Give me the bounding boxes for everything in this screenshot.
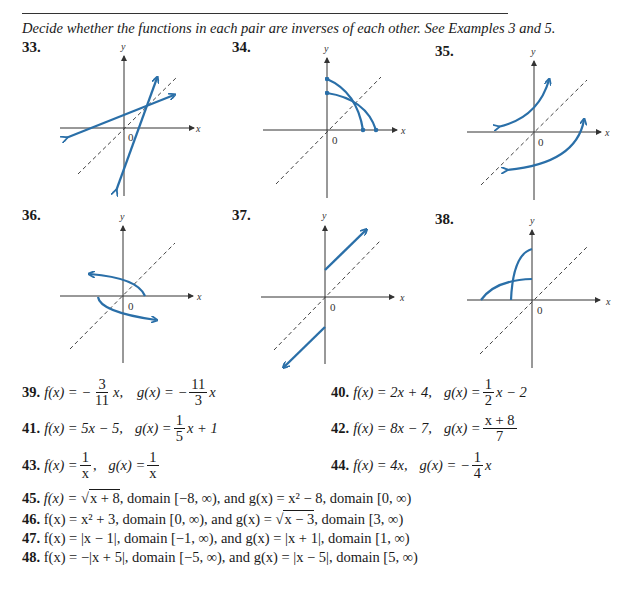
- svg-text:0: 0: [330, 301, 336, 313]
- problem-39-number: 39.: [22, 384, 40, 401]
- graph-33: x y 0: [60, 41, 201, 196]
- graph-34: x y 0: [263, 43, 406, 198]
- svg-text:0: 0: [538, 136, 544, 148]
- graphs-canvas: x y 0 x y 0 x y 0 x y 0: [0, 0, 640, 380]
- graph-37: x y 0: [261, 210, 405, 367]
- problem-40: 40. f(x) = 2x + 4, g(x) = 12 x − 2: [331, 377, 527, 408]
- problem-45: 45. f(x) = √x + 8, domain [−8, ∞), and g…: [22, 490, 411, 507]
- fraction: 1x: [147, 450, 158, 481]
- svg-text:x: x: [400, 125, 406, 136]
- problem-43-number: 43.: [22, 457, 40, 474]
- fraction: 1x: [80, 450, 91, 481]
- fraction: 311: [93, 377, 111, 408]
- graph-38: x y 0: [467, 215, 611, 368]
- svg-text:x: x: [195, 123, 201, 134]
- problem-47: 47. f(x) = |x − 1|, domain [−1, ∞), and …: [22, 530, 410, 547]
- svg-text:y: y: [529, 215, 535, 226]
- svg-text:0: 0: [332, 134, 338, 146]
- svg-text:0: 0: [537, 304, 543, 316]
- fraction: 14: [472, 450, 483, 481]
- fraction: x + 87: [483, 413, 517, 444]
- problem-39: 39. f(x) = − 311 x, g(x) = − 113 x: [22, 377, 216, 408]
- problem-41-number: 41.: [22, 420, 40, 437]
- svg-text:x: x: [605, 296, 611, 307]
- svg-text:x: x: [399, 292, 405, 303]
- sqrt-expression: x − 3: [283, 510, 314, 527]
- problem-48: 48. f(x) = −|x + 5|, domain [−5, ∞), and…: [22, 549, 418, 566]
- svg-text:0: 0: [128, 300, 134, 312]
- g-label: g(x) = −: [137, 384, 187, 401]
- svg-text:y: y: [119, 211, 125, 222]
- fraction: 12: [483, 377, 494, 408]
- problem-42: 42. f(x) = 8x − 7, g(x) = x + 87: [331, 413, 519, 444]
- problem-42-number: 42.: [331, 420, 349, 437]
- fraction: 15: [174, 413, 185, 444]
- problem-40-number: 40.: [331, 384, 349, 401]
- svg-text:y: y: [120, 41, 126, 52]
- svg-text:y: y: [321, 210, 327, 221]
- fraction: 113: [189, 377, 207, 408]
- problem-46: 46. f(x) = x² + 3, domain [0, ∞), and g(…: [22, 511, 403, 528]
- f-label: f(x) = −: [44, 384, 91, 401]
- problem-44: 44. f(x) = 4x, g(x) = − 14 x: [331, 450, 491, 481]
- graph-35: x y 0: [467, 46, 610, 200]
- problem-41: 41. f(x) = 5x − 5, g(x) = 15 x + 1: [22, 413, 218, 444]
- svg-text:y: y: [530, 46, 536, 57]
- svg-text:x: x: [196, 291, 202, 302]
- problem-43: 43. f(x) = 1x , g(x) = 1x: [22, 450, 161, 481]
- graph-36: x y 0: [60, 211, 202, 363]
- sqrt-expression: x + 8: [89, 489, 120, 506]
- svg-text:x: x: [604, 127, 610, 138]
- svg-text:y: y: [323, 43, 329, 54]
- problem-44-number: 44.: [331, 457, 349, 474]
